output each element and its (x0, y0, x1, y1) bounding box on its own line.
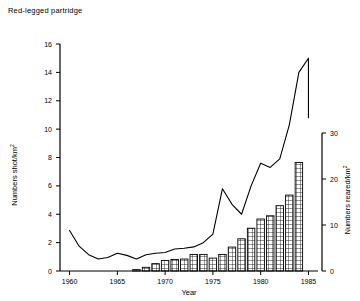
bar (161, 260, 168, 271)
y-axis-left-tick-label: 16 (44, 41, 52, 48)
y-axis-left-tick-label: 10 (44, 126, 52, 133)
x-axis-label: Year (181, 288, 197, 297)
y-axis-right-tick-label: 20 (330, 176, 338, 183)
x-axis-tick-label: 1965 (110, 278, 126, 285)
bar (257, 219, 264, 271)
x-axis-tick-label: 1985 (301, 278, 317, 285)
bar (295, 162, 302, 271)
y-axis-right-tick-label: 30 (330, 130, 338, 137)
bar (286, 195, 293, 271)
bar (238, 239, 245, 271)
chart-plot: 0246810121416 0102030 196019651970197519… (0, 0, 360, 301)
y-axis-left-tick-label: 2 (48, 239, 52, 246)
bar (219, 254, 226, 271)
y-axis-left-tick-label: 8 (48, 154, 52, 161)
y-axis-left-tick-label: 4 (48, 211, 52, 218)
chart-figure: Red-legged partridge 0246810121416 01020… (0, 0, 360, 301)
svg-text:Numbers shot/km2: Numbers shot/km2 (9, 144, 19, 206)
bar (171, 260, 178, 272)
bar (181, 259, 188, 271)
bar (276, 206, 283, 271)
bar (267, 216, 274, 271)
bar (209, 258, 216, 271)
y-axis-right-tick-label: 0 (330, 268, 334, 275)
y-axis-left-tick-label: 14 (44, 69, 52, 76)
bar-series (133, 162, 303, 271)
x-axis-tick-label: 1970 (157, 278, 173, 285)
x-axis-tick-label: 1975 (205, 278, 221, 285)
y-axis-right-tick-label: 10 (330, 222, 338, 229)
y-axis-left-ticks: 0246810121416 (44, 41, 60, 275)
y-axis-right-ticks: 0102030 (322, 130, 338, 275)
bar (247, 228, 254, 271)
bar (152, 264, 159, 271)
x-axis-ticks: 196019651970197519801985 (62, 271, 317, 285)
svg-text:Numbers reared/km2: Numbers reared/km2 (342, 165, 352, 234)
y-axis-left-tick-label: 6 (48, 182, 52, 189)
y-axis-left-label: Numbers shot/km2 (9, 144, 19, 206)
y-axis-left-tick-label: 0 (48, 268, 52, 275)
y-axis-right-label: Numbers reared/km2 (342, 165, 352, 234)
bar (190, 254, 197, 271)
bar (228, 247, 235, 271)
x-axis-tick-label: 1960 (62, 278, 78, 285)
y-axis-left-tick-label: 12 (44, 97, 52, 104)
x-axis-tick-label: 1980 (253, 278, 269, 285)
bar (200, 254, 207, 271)
